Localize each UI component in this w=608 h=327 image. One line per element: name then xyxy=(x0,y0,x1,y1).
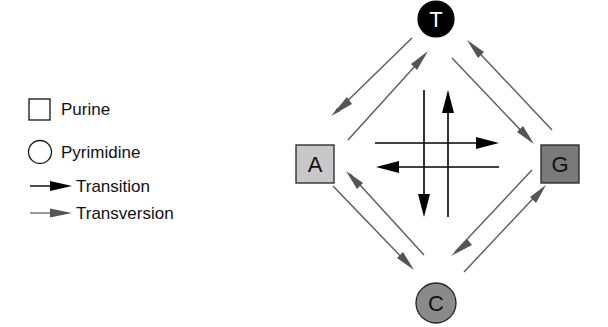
node-a: A xyxy=(296,145,334,183)
node-a-label: A xyxy=(308,152,323,177)
substitution-diagram: T A G C xyxy=(0,0,608,327)
transition-arrow-icon xyxy=(30,181,72,191)
node-c: C xyxy=(416,283,456,323)
node-c-label: C xyxy=(428,291,444,316)
arrow-a-to-t xyxy=(348,55,425,140)
legend-label-purine: Purine xyxy=(61,101,110,118)
legend-label-transversion: Transversion xyxy=(76,205,174,222)
node-g: G xyxy=(541,145,579,183)
node-t-label: T xyxy=(429,7,442,32)
transition-arrows xyxy=(375,90,499,217)
arrow-t-to-g xyxy=(452,58,530,140)
purine-square-icon xyxy=(29,99,50,120)
node-g-label: G xyxy=(551,152,568,177)
legend-label-transition: Transition xyxy=(76,178,150,195)
transversion-arrows xyxy=(331,38,552,272)
pyrimidine-circle-icon xyxy=(29,141,52,164)
arrow-g-to-t xyxy=(470,43,552,130)
legend-label-pyrimidine: Pyrimidine xyxy=(61,144,140,161)
transversion-arrow-icon xyxy=(30,209,72,218)
node-t: T xyxy=(418,1,454,37)
